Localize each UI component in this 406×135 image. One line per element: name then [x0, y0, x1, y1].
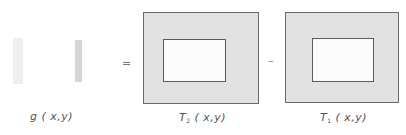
diagram: g ( x,y) = T2 ( x,y) – T1 ( x,y) — [0, 0, 406, 135]
g-right-strip — [75, 40, 82, 82]
t1-inner-box — [312, 38, 374, 82]
label-t1: T1 ( x,y) — [320, 111, 367, 124]
g-left-strip — [13, 38, 23, 84]
equals-sign: = — [122, 58, 131, 69]
label-g: g ( x,y) — [30, 110, 73, 123]
label-t2: T2 ( x,y) — [179, 111, 226, 124]
t2-inner-box — [163, 39, 226, 82]
minus-sign: – — [268, 55, 274, 66]
